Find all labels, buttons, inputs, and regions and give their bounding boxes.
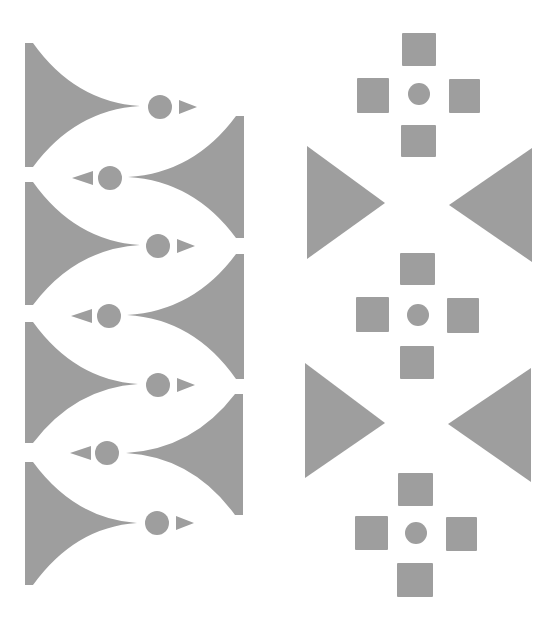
dot-circle <box>146 234 170 258</box>
cross-square <box>401 125 436 157</box>
dot-circle <box>148 95 172 119</box>
horn-shape-right-pointing <box>25 182 140 305</box>
arrow-triangle-left <box>70 446 91 460</box>
arrow-triangle-right <box>177 378 195 392</box>
cross-square <box>447 298 479 333</box>
dot-circle <box>98 166 122 190</box>
arrow-triangle-left <box>72 171 93 185</box>
cross-square <box>355 516 388 550</box>
cross-square <box>449 79 480 113</box>
triangle-left-pointing <box>449 148 532 262</box>
dot-circle <box>95 441 119 465</box>
right-column-pattern <box>305 33 532 597</box>
pattern-canvas <box>0 0 558 617</box>
dot-circle <box>97 304 121 328</box>
cross-center-dot <box>407 304 429 326</box>
cross-square <box>446 517 477 551</box>
cross-square <box>402 33 436 66</box>
arrow-triangle-right <box>176 516 194 530</box>
horn-shape-left-pointing <box>127 254 244 379</box>
cross-square <box>400 346 434 379</box>
dot-circle <box>146 373 170 397</box>
horn-shape-left-pointing <box>128 116 244 238</box>
cross-center-dot <box>405 522 427 544</box>
triangle-left-pointing <box>448 368 531 482</box>
arrow-triangle-left <box>71 309 92 323</box>
cross-center-dot <box>408 83 430 105</box>
arrow-triangle-right <box>177 239 195 253</box>
cross-square <box>398 473 433 506</box>
triangle-right-pointing <box>305 363 385 478</box>
horn-shape-right-pointing <box>25 462 137 585</box>
horn-shape-right-pointing <box>25 43 140 167</box>
dot-circle <box>145 511 169 535</box>
cross-square <box>397 563 433 597</box>
triangle-right-pointing <box>307 146 385 259</box>
arrow-triangle-right <box>179 100 197 114</box>
horn-shape-right-pointing <box>25 322 138 443</box>
left-column-pattern <box>25 43 244 585</box>
cross-square <box>356 297 389 332</box>
cross-square <box>357 78 389 113</box>
horn-shape-left-pointing <box>126 394 243 515</box>
cross-square <box>400 253 435 285</box>
